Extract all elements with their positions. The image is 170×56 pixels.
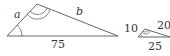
side-10-label: 10 [124,22,138,35]
small-triangle: 10 20 25 [124,19,170,53]
angle-arc-left [17,25,22,36]
side-a-label: a [14,8,21,21]
side-b-label: b [76,5,83,18]
base-25-label: 25 [148,40,162,53]
large-triangle-outline [7,4,118,36]
similar-triangles-diagram: a b 75 10 20 25 [0,0,170,56]
base-75-label: 75 [51,38,65,51]
large-triangle: a b 75 [7,4,118,51]
side-20-label: 20 [157,19,170,32]
